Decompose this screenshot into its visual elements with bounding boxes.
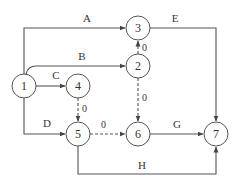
dummy-edge-5-6: 0 [90, 119, 125, 134]
edge-d: D [24, 98, 65, 134]
node-1: 1 [12, 74, 36, 98]
svg-text:0: 0 [142, 92, 147, 103]
node-6: 6 [126, 122, 150, 146]
node-4: 4 [66, 74, 90, 98]
edge-h: H [78, 146, 216, 174]
dummy-edge-4-5: 0 [78, 98, 87, 121]
dummy-edge-2-6: 0 [138, 78, 147, 121]
svg-text:D: D [43, 117, 51, 129]
edge-a: A [24, 12, 125, 74]
edge-g: G [150, 118, 203, 134]
svg-text:5: 5 [75, 127, 81, 141]
svg-text:2: 2 [135, 59, 141, 73]
node-5: 5 [66, 122, 90, 146]
svg-text:0: 0 [101, 119, 106, 130]
svg-text:7: 7 [213, 127, 219, 141]
node-2: 2 [126, 54, 150, 78]
svg-text:H: H [138, 159, 146, 171]
svg-text:G: G [173, 118, 181, 130]
svg-text:0: 0 [82, 103, 87, 114]
svg-text:B: B [78, 50, 85, 62]
svg-text:C: C [52, 69, 59, 81]
node-7: 7 [204, 122, 228, 146]
edge-c: C [36, 69, 65, 86]
svg-text:E: E [172, 12, 179, 24]
svg-text:A: A [83, 12, 91, 24]
node-3: 3 [126, 16, 150, 40]
dummy-edge-2-3: 0 [138, 41, 147, 54]
edge-e: E [150, 12, 216, 121]
svg-text:0: 0 [142, 42, 147, 53]
network-diagram: A B C D E G H 0 0 0 [0, 0, 239, 187]
edge-b: B [26, 50, 125, 74]
svg-text:6: 6 [135, 127, 141, 141]
svg-text:4: 4 [75, 79, 81, 93]
svg-text:3: 3 [135, 21, 141, 35]
svg-text:1: 1 [21, 79, 27, 93]
